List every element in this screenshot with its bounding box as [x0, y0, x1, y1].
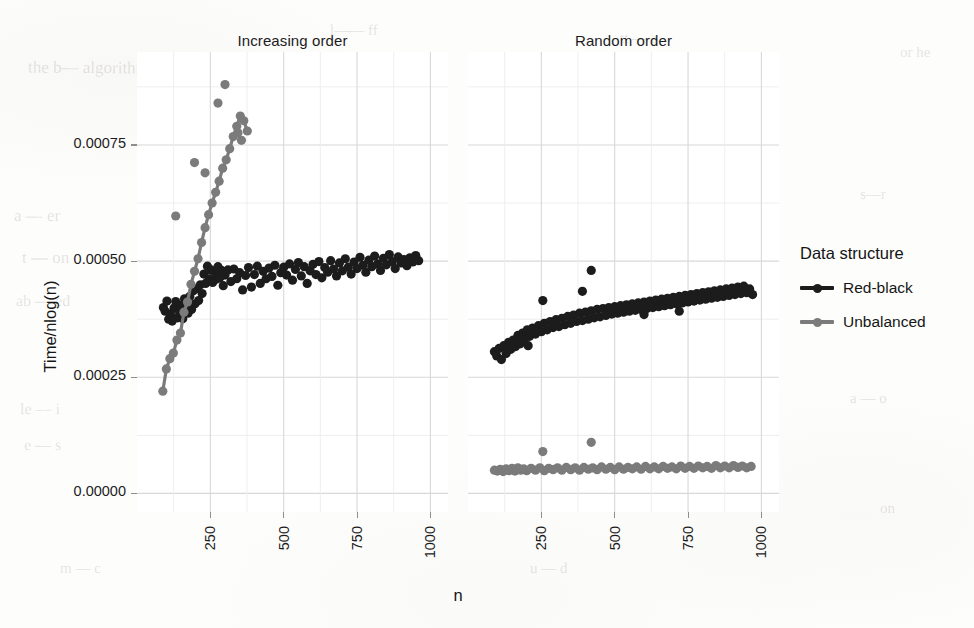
legend-key-swatch — [800, 278, 834, 298]
x-tick-mark — [541, 512, 542, 518]
data-point — [169, 348, 178, 357]
panel-plot-area — [137, 52, 448, 512]
data-point — [675, 307, 684, 316]
legend-item-unbalanced[interactable]: Unbalanced — [800, 309, 926, 335]
data-point — [190, 158, 199, 167]
data-point — [162, 296, 171, 305]
data-point — [587, 266, 596, 275]
data-point — [747, 462, 756, 471]
data-point — [250, 270, 259, 279]
data-point — [524, 341, 533, 350]
data-point — [237, 136, 246, 145]
x-tick-mark — [210, 512, 211, 518]
data-point — [587, 438, 596, 447]
data-point — [414, 256, 423, 265]
data-point — [355, 253, 364, 262]
data-point — [200, 168, 209, 177]
x-tick-label: 1000 — [753, 526, 769, 582]
data-point — [176, 329, 185, 338]
legend-item-label: Red-black — [843, 279, 913, 297]
y-tick-label: 0.00075 — [14, 135, 126, 151]
figure-scatter-plot: Increasing order Random order Time/nlog(… — [0, 0, 974, 628]
data-point — [748, 290, 757, 299]
panel-plot-area — [468, 52, 779, 512]
legend-key-point-icon — [813, 284, 822, 293]
data-point — [197, 238, 206, 247]
x-tick-mark — [761, 512, 762, 518]
data-point — [297, 271, 306, 280]
data-point — [218, 164, 227, 173]
data-point — [241, 271, 250, 280]
data-point — [225, 144, 234, 153]
legend-item-label: Unbalanced — [843, 313, 926, 331]
data-point — [179, 308, 188, 317]
data-point — [213, 99, 222, 108]
data-point — [171, 211, 180, 220]
data-point — [538, 447, 547, 456]
x-tick-label: 750 — [680, 526, 696, 582]
x-tick-label: 750 — [349, 526, 365, 582]
data-point — [190, 267, 199, 276]
data-point — [238, 285, 247, 294]
legend-title: Data structure — [800, 244, 926, 263]
y-tick-label: 0.00025 — [14, 367, 126, 383]
data-point — [183, 297, 192, 306]
data-point — [303, 279, 312, 288]
legend-key-swatch — [800, 312, 834, 332]
data-point — [198, 289, 207, 298]
legend-items: Red-blackUnbalanced — [800, 275, 926, 335]
data-point — [639, 310, 648, 319]
data-point — [538, 296, 547, 305]
data-point — [273, 281, 282, 290]
x-tick-label: 500 — [607, 526, 623, 582]
data-point — [158, 387, 167, 396]
legend: Data structure Red-blackUnbalanced — [800, 244, 926, 343]
legend-item-red-black[interactable]: Red-black — [800, 275, 926, 301]
panel-background — [468, 52, 779, 512]
data-point — [162, 364, 171, 373]
data-point — [186, 280, 195, 289]
data-point — [208, 198, 217, 207]
data-point — [243, 126, 252, 135]
data-point — [270, 261, 279, 270]
x-tick-label: 250 — [533, 526, 549, 582]
data-point — [326, 256, 335, 265]
panel-random-order — [468, 52, 779, 512]
x-tick-label: 500 — [276, 526, 292, 582]
x-tick-mark — [357, 512, 358, 518]
data-point — [267, 272, 276, 281]
data-point — [247, 283, 256, 292]
legend-key-point-icon — [813, 318, 822, 327]
data-point — [239, 116, 248, 125]
data-point — [222, 155, 231, 164]
x-tick-label: 1000 — [422, 526, 438, 582]
y-tick-label: 0.00050 — [14, 251, 126, 267]
data-point — [215, 177, 224, 186]
facet-title-increasing: Increasing order — [137, 32, 448, 49]
data-point — [211, 188, 220, 197]
data-point — [288, 276, 297, 285]
x-tick-mark — [614, 512, 615, 518]
data-point — [220, 80, 229, 89]
data-point — [193, 254, 202, 263]
data-point — [204, 210, 213, 219]
y-tick-label: 0.00000 — [14, 483, 126, 499]
panel-increasing-order — [137, 52, 448, 512]
data-point — [370, 251, 379, 260]
x-tick-mark — [688, 512, 689, 518]
data-point — [341, 254, 350, 263]
x-axis-title: n — [358, 586, 558, 605]
data-point — [578, 287, 587, 296]
x-tick-label: 250 — [202, 526, 218, 582]
x-tick-mark — [283, 512, 284, 518]
data-point — [200, 223, 209, 232]
x-tick-mark — [430, 512, 431, 518]
facet-title-random: Random order — [468, 32, 779, 49]
